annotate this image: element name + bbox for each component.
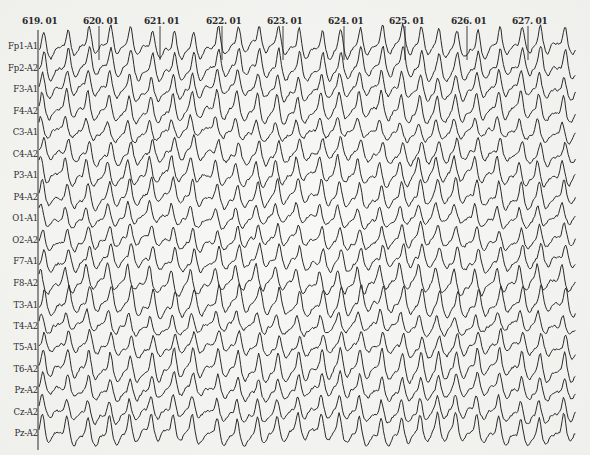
- time-marker-label: 624. 01: [328, 16, 363, 26]
- channel-label-f7-a1: F7-A1: [2, 256, 38, 266]
- eeg-trace-f7-a1: [39, 243, 575, 274]
- channel-label-cz-a2: Cz-A2: [2, 407, 38, 417]
- channel-label-p4-a2: P4-A2: [2, 192, 38, 202]
- channel-label-o1-a1: O1-A1: [2, 213, 38, 223]
- channel-label-pz-a2: Pz-A2: [2, 385, 38, 395]
- eeg-trace-t5-a1: [39, 328, 575, 359]
- channel-label-t5-a1: T5-A1: [2, 342, 38, 352]
- eeg-trace-t6-a2: [39, 347, 575, 384]
- channel-label-fp1-a1: Fp1-A1: [2, 41, 38, 51]
- eeg-trace-f3-a1: [39, 69, 575, 102]
- eeg-trace-o2-a2: [39, 221, 575, 253]
- time-marker-label: 623. 01: [267, 16, 302, 26]
- time-marker-label: 625. 01: [389, 16, 424, 26]
- time-marker-label: 627. 01: [512, 16, 547, 26]
- channel-label-o2-a2: O2-A2: [2, 235, 38, 245]
- channel-label-f8-a2: F8-A2: [2, 278, 38, 288]
- channel-label-c3-a1: C3-A1: [2, 127, 38, 137]
- eeg-trace-t4-a2: [39, 309, 575, 337]
- eeg-trace-c4-a2: [39, 135, 575, 168]
- time-marker-label: 619. 01: [22, 16, 57, 26]
- eeg-trace-fp1-a1: [39, 24, 575, 60]
- time-marker-label: 620. 01: [83, 16, 118, 26]
- channel-label-fp2-a2: Fp2-A2: [2, 63, 38, 73]
- eeg-recording: 619. 01 620. 01 621. 01 622. 01 623. 01 …: [0, 0, 590, 455]
- channel-label-t4-a2: T4-A2: [2, 321, 38, 331]
- time-marker-label: 626. 01: [451, 16, 486, 26]
- channel-label-pz-a2-2: Pz-A2: [2, 428, 38, 438]
- eeg-trace-t3-a1: [39, 283, 575, 318]
- channel-label-p3-a1: P3-A1: [2, 170, 38, 180]
- channel-label-f4-a2: F4-A2: [2, 106, 38, 116]
- channel-label-t6-a2: T6-A2: [2, 364, 38, 374]
- eeg-trace-o1-a1: [39, 200, 575, 229]
- eeg-trace-pz-a2: [39, 371, 575, 403]
- eeg-traces: [0, 0, 590, 455]
- time-marker-label: 621. 01: [144, 16, 179, 26]
- eeg-trace-f8-a2: [39, 263, 575, 297]
- eeg-trace-pz-a2: [39, 412, 575, 447]
- time-marker-label: 622. 01: [206, 16, 241, 26]
- channel-label-f3-a1: F3-A1: [2, 84, 38, 94]
- eeg-trace-p4-a2: [39, 177, 575, 212]
- channel-label-c4-a2: C4-A2: [2, 149, 38, 159]
- channel-label-t3-a1: T3-A1: [2, 300, 38, 310]
